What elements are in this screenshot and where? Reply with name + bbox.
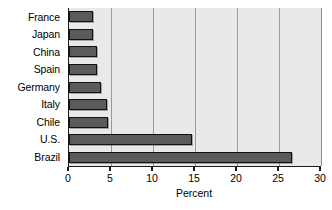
bar — [69, 11, 93, 22]
y-axis-tick-label: Spain — [0, 61, 64, 79]
bar — [69, 64, 97, 75]
bar-series — [69, 8, 321, 166]
bar — [69, 134, 192, 145]
x-axis-tick-label: 10 — [146, 171, 158, 185]
x-axis-tick-label: 5 — [107, 171, 113, 185]
bar-row — [69, 131, 321, 149]
y-axis-tick-label: Japan — [0, 26, 64, 44]
y-axis-tick-label: Italy — [0, 96, 64, 114]
x-axis-tick-label: 0 — [65, 171, 71, 185]
bar-row — [69, 149, 321, 167]
y-axis-tick-label: Chile — [0, 113, 64, 131]
y-axis-tick-label: France — [0, 8, 64, 26]
bar-row — [69, 78, 321, 96]
plot-area — [68, 8, 321, 167]
x-axis-title: Percent — [68, 187, 320, 200]
y-axis-tick-label: U.S. — [0, 131, 64, 149]
bar — [69, 82, 101, 93]
y-axis-category-labels: France Japan China Spain Germany Italy C… — [0, 8, 64, 166]
bar-row — [69, 96, 321, 114]
bar-row — [69, 113, 321, 131]
bar — [69, 29, 93, 40]
x-axis-tick-label: 30 — [314, 171, 326, 185]
y-axis-tick-label: Germany — [0, 78, 64, 96]
x-axis-tick-label: 15 — [188, 171, 200, 185]
bar-row — [69, 26, 321, 44]
bar — [69, 152, 292, 163]
bar — [69, 46, 97, 57]
bar-row — [69, 43, 321, 61]
bar-row — [69, 8, 321, 26]
x-axis-tick-labels: 051015202530 — [68, 171, 320, 185]
x-axis-tick-label: 25 — [272, 171, 284, 185]
bar-row — [69, 61, 321, 79]
x-axis-tick-label: 20 — [230, 171, 242, 185]
bar — [69, 117, 108, 128]
bar — [69, 99, 107, 110]
y-axis-tick-label: China — [0, 43, 64, 61]
y-axis-tick-label: Brazil — [0, 149, 64, 167]
bar-chart: France Japan China Spain Germany Italy C… — [0, 0, 332, 210]
